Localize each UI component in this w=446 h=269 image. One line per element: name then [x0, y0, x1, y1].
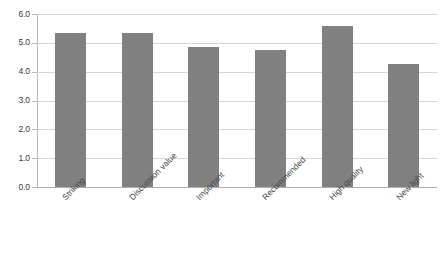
bar-chart: 0.01.02.03.04.05.06.0 StrikingDiscussion…: [0, 0, 446, 269]
y-axis-tick-mark: [32, 187, 37, 188]
x-axis-category-label: Important: [194, 170, 226, 202]
x-axis-category-label: Discussion value: [127, 150, 179, 202]
x-axis-category-labels: StrikingDiscussion valueImportantRecomme…: [0, 0, 446, 269]
y-axis-tick-mark: [32, 14, 37, 15]
x-axis-category-label: Recommended: [260, 155, 307, 202]
x-axis-category-label: High quality: [327, 164, 365, 202]
y-axis-tick-mark: [32, 129, 37, 130]
y-axis-tick-mark: [32, 43, 37, 44]
y-axis-tick-mark: [32, 101, 37, 102]
y-axis-tick-mark: [32, 158, 37, 159]
x-axis-category-label: New light: [394, 171, 425, 202]
y-axis-tick-mark: [32, 72, 37, 73]
x-axis-category-label: Striking: [60, 175, 87, 202]
